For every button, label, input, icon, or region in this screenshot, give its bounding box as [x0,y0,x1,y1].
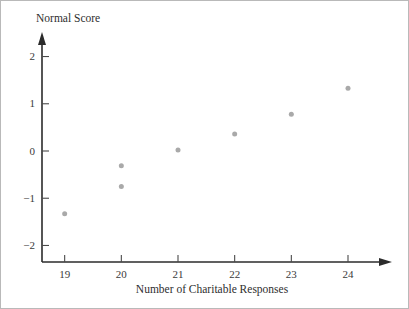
y-axis-arrow-icon [38,32,46,45]
x-tick-label: 19 [59,268,71,280]
data-point: 24, 1.33 [346,86,351,91]
x-tick-label: 22 [229,268,240,280]
data-point: 21, 0.02 [176,148,181,153]
y-tick-label: −2 [23,239,35,251]
x-axis-ticks: 192021222324 [59,255,354,280]
y-tick-label: −1 [23,192,35,204]
axes [38,32,392,266]
y-tick-label: 2 [30,50,36,62]
chart-figure: 210−1−2 192021222324 19, -1.3320, -0.312… [0,0,409,309]
data-point: 20, -0.31 [119,163,124,168]
data-point: 22, 0.36 [232,131,237,136]
y-tick-label: 0 [30,145,36,157]
x-axis-title: Number of Charitable Responses [136,283,289,296]
scatter-plot: 210−1−2 192021222324 19, -1.3320, -0.312… [0,0,409,309]
data-point: 19, -1.33 [62,211,67,216]
data-point: 20, -0.75 [119,184,124,189]
x-tick-label: 21 [173,268,184,280]
y-axis-title: Normal Score [36,12,100,24]
y-axis-ticks: 210−1−2 [23,50,49,251]
data-points: 19, -1.3320, -0.3120, -0.7521, 0.0222, 0… [62,86,350,217]
x-tick-label: 24 [343,268,355,280]
data-point: 23, 0.78 [289,112,294,117]
x-tick-label: 20 [116,268,128,280]
x-axis-arrow-icon [379,258,392,266]
y-tick-label: 1 [30,97,36,109]
x-tick-label: 23 [286,268,298,280]
